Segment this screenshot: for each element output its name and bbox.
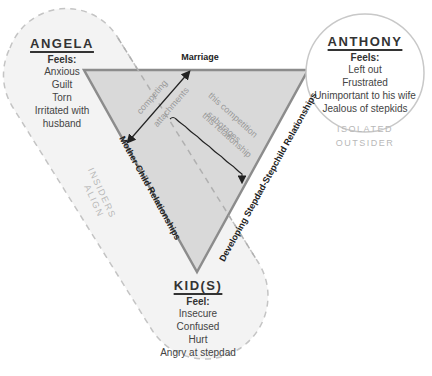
anthony-feeling: Jealous of stepkids: [305, 102, 425, 115]
outsider-label: OUTSIDER: [325, 138, 405, 148]
anthony-feels-heading: Feels:: [305, 52, 425, 63]
marriage-label: Marriage: [170, 52, 230, 62]
anthony-feeling: Left out: [305, 63, 425, 76]
angela-block: ANGELA Feels: Anxious Guilt Torn Irritat…: [12, 36, 112, 130]
angela-feeling: Torn: [12, 91, 112, 104]
kids-block: KID(S) Feel: Insecure Confused Hurt Angr…: [148, 278, 248, 359]
angela-feeling: Irritated with: [12, 104, 112, 117]
kids-feeling: Angry at stepdad: [148, 346, 248, 359]
isolated-label: ISOLATED: [325, 124, 405, 134]
kids-feels-heading: Feel:: [148, 296, 248, 307]
angela-feeling: Anxious: [12, 65, 112, 78]
kids-feeling: Confused: [148, 320, 248, 333]
angela-feeling: Guilt: [12, 78, 112, 91]
anthony-feeling: Frustrated: [305, 76, 425, 89]
angela-name: ANGELA: [12, 36, 112, 51]
angela-feels-heading: Feels:: [12, 54, 112, 65]
angela-feeling: husband: [12, 117, 112, 130]
kids-name: KID(S): [148, 278, 248, 293]
kids-feeling: Insecure: [148, 307, 248, 320]
anthony-name: ANTHONY: [305, 34, 425, 49]
kids-feeling: Hurt: [148, 333, 248, 346]
anthony-block: ANTHONY Feels: Left out Frustrated Unimp…: [305, 34, 425, 115]
anthony-feeling: Unimportant to his wife: [305, 89, 425, 102]
